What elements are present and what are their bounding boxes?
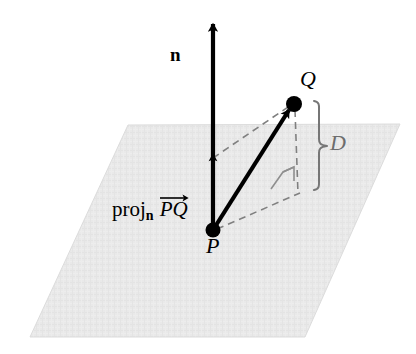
figure-root: n Q P D projn PQ: [0, 0, 416, 354]
label-projection: projn PQ: [112, 197, 188, 220]
projection-vector-pq: PQ: [160, 197, 188, 220]
projection-word: proj: [112, 199, 146, 220]
label-point-p: P: [206, 235, 219, 257]
label-normal-vector-n: n: [170, 45, 181, 64]
projection-subscript-n: n: [146, 209, 154, 223]
projection-vector-label: PQ: [160, 197, 188, 221]
label-distance-d: D: [330, 132, 346, 154]
diagram-canvas: [0, 0, 416, 354]
point-q: [286, 96, 302, 112]
label-point-q: Q: [300, 68, 316, 90]
point-q-dot: [286, 96, 302, 112]
